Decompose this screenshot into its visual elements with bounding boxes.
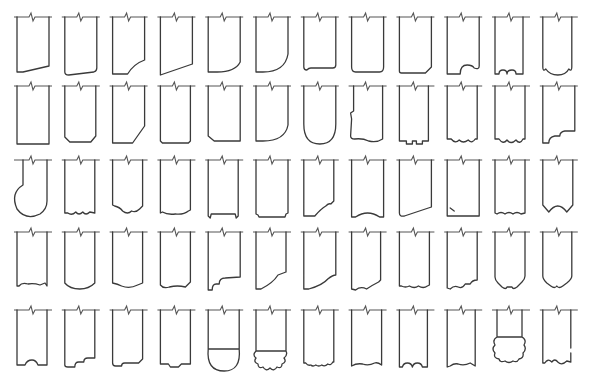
break-line-icon	[444, 156, 482, 164]
break-line-icon	[205, 82, 243, 90]
profile-shape-diagonal-bottom	[157, 13, 195, 75]
profile-outline	[113, 232, 143, 287]
profile-shape-stepped-feet-bottom	[205, 156, 243, 218]
break-line-icon	[301, 82, 339, 90]
profile-outline	[160, 310, 190, 367]
profile-shape-double-chamfer	[62, 82, 100, 142]
profile-outline	[17, 232, 47, 286]
break-line-icon	[62, 156, 100, 164]
break-line-icon	[157, 228, 195, 236]
profile-outline	[543, 232, 572, 288]
break-line-icon	[62, 82, 100, 90]
break-line-icon	[349, 82, 387, 90]
break-line-icon	[492, 13, 530, 21]
break-line-icon	[301, 306, 339, 314]
profile-outline	[208, 232, 240, 290]
profile-shape-small-rounded-feet	[253, 156, 291, 217]
profile-shape-triple-wave-bottom	[492, 156, 530, 214]
profile-shape-center-notch-bottom	[14, 306, 52, 365]
profile-outline	[160, 232, 190, 288]
profile-outline	[256, 86, 288, 141]
profile-outline	[543, 160, 573, 212]
profile-shape-center-arch-bottom	[540, 156, 578, 212]
break-line-icon	[110, 156, 148, 164]
break-line-icon	[301, 156, 339, 164]
profile-outline	[447, 232, 477, 289]
profile-shape-square-small-notches	[157, 82, 195, 143]
profile-outline	[208, 160, 238, 218]
break-line-icon	[205, 13, 243, 21]
profile-grid	[0, 0, 592, 383]
break-line-icon	[444, 228, 482, 236]
profile-shape-cove-bottom-rounded	[62, 228, 100, 289]
profile-outline	[208, 17, 240, 72]
profile-shape-double-bead-bottom	[444, 82, 482, 142]
break-line-icon	[253, 228, 291, 236]
profile-outline	[447, 86, 477, 142]
profile-outline	[17, 310, 47, 365]
profile-outline	[495, 86, 525, 143]
profile-shape-half-round-with-line	[205, 306, 243, 371]
profile-shape-half-round-bottom	[301, 82, 339, 144]
profile-outline	[351, 86, 383, 142]
break-line-icon	[396, 13, 434, 21]
profile-shape-rounded-corner-right	[205, 13, 243, 72]
profile-outline	[113, 160, 143, 213]
profile-outline	[399, 17, 431, 73]
profile-outline	[447, 160, 479, 216]
break-line-icon	[14, 13, 52, 21]
break-line-icon	[62, 228, 100, 236]
profile-outline	[493, 310, 525, 363]
profile-shape-long-ogee-right	[253, 228, 291, 289]
profile-shape-notched-corners	[301, 13, 339, 70]
break-line-icon	[540, 82, 578, 90]
profile-shape-wave-bottom	[110, 156, 148, 213]
break-line-icon	[396, 156, 434, 164]
profile-shape-ogee-step-left	[540, 82, 578, 143]
profile-shape-scalloped-bulb	[492, 306, 530, 363]
profile-outline	[304, 86, 336, 144]
profile-shape-shallow-cove-bottom	[157, 156, 195, 214]
profile-shape-cove-corner-right	[110, 13, 148, 74]
profile-shape-rounded-corners-step	[349, 13, 387, 72]
profile-shape-slanted-bottom-notch	[14, 13, 52, 72]
break-line-icon	[62, 306, 100, 314]
profile-outline	[65, 310, 95, 367]
profile-outline	[113, 17, 145, 74]
profile-shape-ogee-right-rounded	[301, 228, 339, 289]
profile-shape-broad-cove-bottom	[349, 156, 387, 217]
break-line-icon	[301, 13, 339, 21]
profile-outline	[17, 86, 49, 144]
profile-shape-ogee-shallow-bottom	[157, 228, 195, 288]
break-line-icon	[14, 82, 52, 90]
profile-outline	[113, 86, 145, 143]
profile-outline	[399, 160, 431, 216]
break-line-icon	[492, 306, 530, 314]
profile-shape-quarter-round-right-large	[253, 82, 291, 141]
break-line-icon	[157, 156, 195, 164]
break-line-icon	[396, 228, 434, 236]
profile-shape-cove-bottom-stepped	[540, 306, 578, 364]
profile-outline	[543, 310, 571, 364]
profile-shape-chamfer-corner-right	[396, 13, 434, 73]
break-line-icon	[444, 306, 482, 314]
break-line-icon	[62, 13, 100, 21]
break-line-icon	[396, 306, 434, 314]
profile-shape-long-chamfer-right	[110, 82, 148, 143]
profile-shape-ogee-cutout-right	[444, 13, 482, 74]
profile-outline	[65, 17, 97, 75]
break-line-icon	[14, 228, 52, 236]
break-line-icon	[349, 306, 387, 314]
profile-outline	[352, 310, 382, 366]
profile-outline	[352, 232, 381, 290]
profile-shape-irregular-scribed-edge	[349, 82, 387, 142]
profile-outline	[352, 160, 384, 217]
profile-outline	[399, 86, 428, 144]
profile-outline	[65, 232, 95, 289]
profile-shape-double-arch-bottom	[396, 306, 434, 367]
profile-shape-tapered-cove-foot	[540, 228, 578, 288]
break-line-icon	[253, 306, 291, 314]
profile-outline	[399, 310, 427, 367]
break-line-icon	[301, 228, 339, 236]
profile-shape-slanted-bottom-rounded	[62, 13, 100, 75]
